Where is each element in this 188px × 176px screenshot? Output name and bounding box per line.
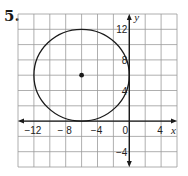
y-tick-label: 4 xyxy=(122,86,128,97)
center-point xyxy=(79,73,84,78)
y-axis-arrow-up-icon xyxy=(127,14,132,20)
y-axis-label: y xyxy=(133,11,139,23)
x-tick-label: −12 xyxy=(24,125,41,136)
x-tick-label: − 8 xyxy=(58,125,73,136)
y-axis-arrow-down-icon xyxy=(127,161,132,167)
y-tick-label: 8 xyxy=(122,55,128,66)
x-tick-label: 0 xyxy=(123,125,129,136)
grid-lines xyxy=(18,14,177,167)
y-tick-label: −4 xyxy=(116,147,128,158)
x-axis-label: x xyxy=(170,124,176,136)
x-axis-arrow-left-icon xyxy=(18,119,24,124)
x-axis-arrow-right-icon xyxy=(171,119,177,124)
x-tick-label: 4 xyxy=(157,125,163,136)
coordinate-plane: −12− 8−4041284−4xy xyxy=(0,0,188,176)
y-tick-label: 12 xyxy=(116,24,128,35)
x-tick-label: −4 xyxy=(91,125,103,136)
